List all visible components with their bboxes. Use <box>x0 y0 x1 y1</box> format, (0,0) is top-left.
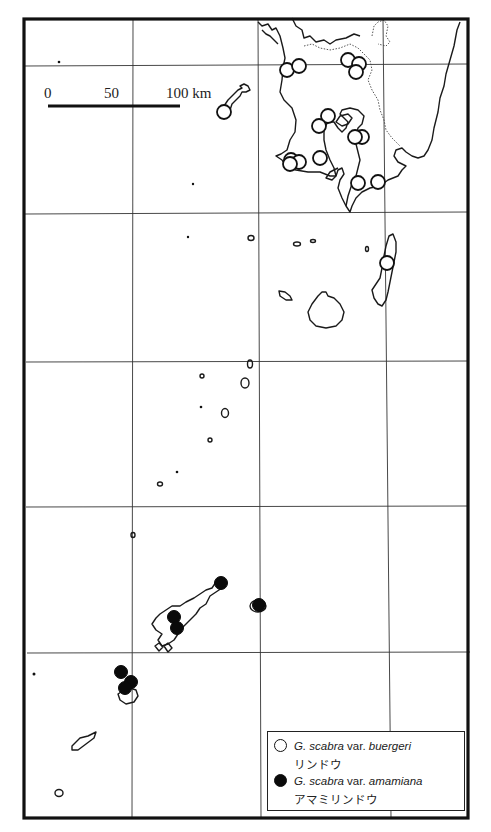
filled-circle-marker <box>253 599 266 612</box>
legend-genus: G. scabra <box>294 775 344 787</box>
buergeri-occurrence-points <box>217 53 394 270</box>
kyushu-landmass <box>218 18 460 212</box>
filled-circle-icon <box>274 774 287 787</box>
filled-circle-marker <box>119 682 132 695</box>
distribution-map: 0 50 100 km <box>0 0 491 832</box>
scale-tick-50: 50 <box>104 85 119 101</box>
open-circle-marker <box>217 105 231 119</box>
open-circle-marker <box>283 157 297 171</box>
amamiana-occurrence-points <box>115 577 266 695</box>
map-frame <box>24 19 468 818</box>
scale-tick-0: 0 <box>44 85 52 101</box>
open-circle-marker <box>351 176 365 190</box>
legend: G. scabra var. buergeri リンドウ G. scabra v… <box>267 731 465 811</box>
legend-japanese-amamiana: アマミリンドウ <box>294 791 378 807</box>
filled-circle-marker <box>215 577 228 590</box>
graticule-grid <box>24 19 470 818</box>
legend-rank: var. <box>347 740 366 752</box>
legend-rank: var. <box>347 775 366 787</box>
open-circle-marker <box>349 65 363 79</box>
filled-circle-marker <box>171 622 184 635</box>
amami-islands <box>55 578 266 797</box>
open-circle-icon <box>274 739 287 752</box>
open-circle-marker <box>380 256 394 270</box>
legend-japanese-buergeri: リンドウ <box>294 756 342 772</box>
open-circle-marker <box>312 119 326 133</box>
open-circle-marker <box>348 130 362 144</box>
filled-circle-marker <box>115 666 128 679</box>
scale-bar: 0 50 100 km <box>44 85 212 106</box>
legend-variety: amamiana <box>369 775 423 787</box>
open-circle-marker <box>292 59 306 73</box>
open-circle-marker <box>371 175 385 189</box>
legend-variety: buergeri <box>369 740 411 752</box>
legend-genus: G. scabra <box>294 740 344 752</box>
open-circle-marker <box>313 151 327 165</box>
scale-tick-100: 100 km <box>166 85 212 101</box>
legend-item-buergeri: G. scabra var. buergeri <box>274 739 411 752</box>
legend-item-amamiana: G. scabra var. amamiana <box>274 774 423 787</box>
